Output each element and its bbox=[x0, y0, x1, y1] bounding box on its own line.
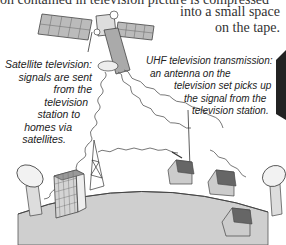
transmission-tower-icon bbox=[90, 140, 104, 190]
label-line: from the bbox=[2, 83, 92, 96]
house-with-antenna-icon bbox=[168, 110, 194, 184]
label-line: an antenna on the bbox=[146, 68, 286, 81]
label-line: Satellite television: bbox=[2, 58, 92, 71]
label-line: television station. bbox=[146, 105, 286, 118]
label-line: television bbox=[2, 96, 92, 109]
office-building-icon bbox=[54, 170, 86, 218]
label-line: homes via bbox=[2, 121, 92, 134]
satellite-tv-label: Satellite television: signals are sent f… bbox=[2, 58, 92, 146]
signal-wave bbox=[98, 148, 178, 153]
uhf-tv-label: UHF television transmission: an antenna … bbox=[146, 55, 286, 118]
label-line: the signal from the bbox=[146, 93, 286, 106]
label-line: UHF television transmission: bbox=[146, 55, 286, 68]
tape-note: into a small space on the tape. bbox=[180, 4, 280, 36]
label-line: station to bbox=[2, 108, 92, 121]
satellite-dish-right-icon bbox=[259, 161, 286, 216]
house-right-icon bbox=[208, 170, 236, 196]
label-line: television set picks up bbox=[146, 80, 286, 93]
tape-note-line: on the tape. bbox=[180, 20, 280, 36]
label-line: signals are sent bbox=[2, 71, 92, 84]
tape-note-line: into a small space bbox=[180, 4, 280, 20]
label-line: satellites. bbox=[2, 133, 92, 146]
